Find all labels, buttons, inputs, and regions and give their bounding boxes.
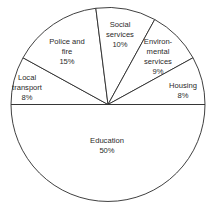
pie-chart: Localtransport8%Police andfire15%Socials… [0,0,211,205]
